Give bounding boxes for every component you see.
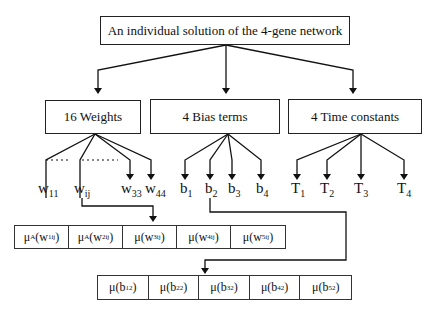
category-weights: 16 Weights [45, 100, 141, 134]
membership-cell: μA(w1ij) [15, 226, 69, 248]
time-leaf: T4 [397, 180, 411, 199]
category-label: 4 Bias terms [183, 109, 248, 125]
membership-cell: μ(w5ij) [231, 226, 285, 248]
weight-leaf: wij [74, 180, 90, 199]
weight-leaf: w33 [121, 180, 142, 199]
membership-cell: μ(w3ij) [123, 226, 177, 248]
root-node: An individual solution of the 4-gene net… [100, 16, 350, 45]
membership-cell: μ(b12) [98, 276, 149, 299]
connector-lines [0, 0, 425, 318]
category-time: 4 Time constants [288, 99, 422, 134]
bias-membership-table: μ(b12) μ(b22) μ(b32) μ(b42) μ(b52) [97, 275, 352, 300]
bias-leaf: b3 [228, 180, 241, 199]
weight-leaf: w11 [38, 180, 58, 199]
membership-cell: μ(b42) [250, 276, 301, 299]
time-leaf: T3 [354, 180, 368, 199]
time-leaf: T2 [320, 180, 334, 199]
weight-leaf: w44 [145, 180, 166, 199]
time-leaf: T1 [291, 180, 305, 199]
bias-leaf: b2 [205, 180, 218, 199]
bias-leaf: b1 [180, 180, 193, 199]
membership-cell: μA(w2ij) [69, 226, 123, 248]
category-bias: 4 Bias terms [150, 99, 280, 134]
bias-leaf: b4 [256, 180, 269, 199]
root-label: An individual solution of the 4-gene net… [108, 23, 343, 39]
weight-membership-table: μA(w1ij) μA(w2ij) μ(w3ij) μ(w4ij) μ(w5ij… [14, 225, 286, 249]
category-label: 16 Weights [64, 109, 122, 125]
membership-cell: μ(b32) [199, 276, 250, 299]
membership-cell: μ(w4ij) [177, 226, 231, 248]
membership-cell: μ(b52) [300, 276, 351, 299]
category-label: 4 Time constants [311, 109, 399, 125]
membership-cell: μ(b22) [149, 276, 200, 299]
